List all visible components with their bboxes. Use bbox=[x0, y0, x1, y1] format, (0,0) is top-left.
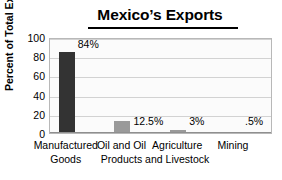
y-tick-label: 60 bbox=[5, 71, 45, 81]
y-tick-label: 40 bbox=[5, 91, 45, 101]
x-axis-line bbox=[50, 132, 271, 133]
y-axis-tick-labels: 100806040200 bbox=[0, 38, 45, 134]
bar-value-label: 84% bbox=[78, 39, 99, 50]
category-label-line: Mining bbox=[198, 139, 268, 153]
chart-title: Mexico’s Exports bbox=[40, 6, 280, 23]
x-axis-category-labels: ManufacturedGoodsOil and OilProductsAgri… bbox=[32, 139, 282, 179]
y-tick-label: 20 bbox=[5, 110, 45, 120]
bar-value-label: .5% bbox=[245, 116, 263, 127]
bar-value-label: 12.5% bbox=[133, 116, 163, 127]
y-tick-label: 80 bbox=[5, 52, 45, 62]
gridline bbox=[50, 58, 271, 59]
title-underline bbox=[88, 27, 238, 29]
category-label-line: and Livestock bbox=[142, 153, 212, 167]
bar bbox=[59, 52, 75, 133]
category-label: Mining bbox=[198, 139, 268, 153]
bar-value-label: 3% bbox=[189, 116, 204, 127]
bar-chart-figure: Mexico’s Exports Percent of Total Export… bbox=[0, 0, 282, 180]
gridline bbox=[50, 97, 271, 98]
y-tick-label: 100 bbox=[5, 33, 45, 43]
plot-area: 84%12.5%3%.5% bbox=[49, 38, 272, 134]
y-tick-label: 0 bbox=[5, 129, 45, 139]
gridline bbox=[50, 77, 271, 78]
